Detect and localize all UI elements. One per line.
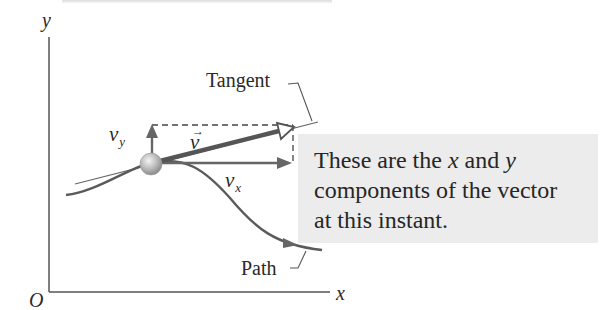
- path-direction-arrowhead: [283, 238, 298, 248]
- vy-symbol: v: [109, 122, 118, 146]
- callout-x-symbol: x: [448, 147, 459, 173]
- path-leader: [290, 251, 306, 268]
- vx-subscript: x: [235, 180, 241, 195]
- callout-line-1: These are the x and y: [314, 145, 598, 175]
- callout-y-symbol: y: [505, 147, 516, 173]
- path-label: Path: [241, 258, 277, 278]
- callout-box: These are the x and y components of the …: [298, 134, 598, 243]
- vy-subscript: y: [119, 134, 125, 149]
- callout-text: and: [459, 147, 506, 173]
- vy-label: vy: [109, 124, 125, 145]
- callout-line-2: components of the vector: [314, 175, 598, 205]
- y-axis-label: y: [42, 10, 51, 30]
- vector-arrow-symbol: →: [192, 125, 204, 137]
- vx-symbol: v: [225, 168, 234, 192]
- origin-label: O: [29, 290, 43, 310]
- path-curve: [66, 161, 322, 250]
- particle: [140, 153, 162, 175]
- callout-line-3: at this instant.: [314, 205, 598, 235]
- velocity-vector-label: → v: [190, 132, 199, 153]
- tangent-leader: [288, 83, 312, 121]
- velocity-vector-arrow: [152, 123, 294, 163]
- tangent-label: Tangent: [206, 70, 270, 90]
- x-axis-label: x: [336, 283, 345, 303]
- vx-label: vx: [225, 170, 241, 191]
- callout-text: These are the: [314, 147, 448, 173]
